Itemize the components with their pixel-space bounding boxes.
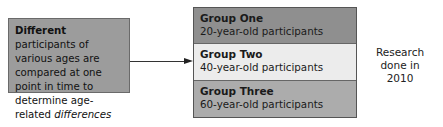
- group-name: Group Two: [200, 48, 350, 61]
- description-box: Different participants of various ages a…: [8, 18, 130, 93]
- note-line-1: Research: [368, 46, 432, 59]
- note-line-3: 2010: [368, 72, 432, 85]
- group-desc: 60-year-old participants: [200, 98, 350, 111]
- description-bold-lead: Different: [15, 25, 66, 36]
- group-desc: 40-year-old participants: [200, 61, 350, 74]
- group-three: Group Three 60-year-old participants: [194, 81, 356, 117]
- group-one: Group One 20-year-old participants: [194, 8, 356, 44]
- group-name: Group Three: [200, 85, 350, 98]
- research-date-note: Research done in 2010: [368, 46, 432, 85]
- arrow-head-icon: [184, 58, 193, 64]
- note-line-2: done in: [368, 59, 432, 72]
- group-two: Group Two 40-year-old participants: [194, 44, 356, 80]
- group-name: Group One: [200, 12, 350, 25]
- group-desc: 20-year-old participants: [200, 25, 350, 38]
- description-italic: differences: [54, 109, 111, 120]
- groups-stack: Group One 20-year-old participants Group…: [193, 7, 357, 118]
- description-text: participants of various ages are compare…: [15, 39, 102, 120]
- arrow-line: [130, 61, 186, 62]
